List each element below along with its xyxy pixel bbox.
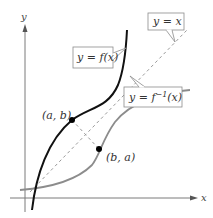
point-b-a-label: (b, a) xyxy=(106,151,135,164)
function-label: y = f(x) xyxy=(76,51,118,64)
callout-identity: y = x xyxy=(148,13,184,42)
y-axis-label: y xyxy=(20,11,27,22)
inverse-label-prefix: y = f xyxy=(128,91,157,104)
inverse-function-label: y = f−1(x) xyxy=(128,90,182,104)
point-b-a xyxy=(96,146,102,152)
y-axis-arrow-icon xyxy=(23,24,28,32)
identity-label: y = x xyxy=(152,15,182,28)
point-a-b-label: (a, b) xyxy=(42,109,71,122)
inverse-function-diagram: y x (a, b) (b, a) y = f(x) y = x y = f−1… xyxy=(0,0,213,218)
inverse-label-suffix: (x) xyxy=(167,91,182,104)
x-axis-label: x xyxy=(201,192,207,203)
callout-function: y = f(x) xyxy=(73,47,126,68)
x-axis-arrow-icon xyxy=(190,196,198,201)
inverse-label-sup: −1 xyxy=(156,90,168,99)
callout-inverse: y = f−1(x) xyxy=(124,76,182,107)
